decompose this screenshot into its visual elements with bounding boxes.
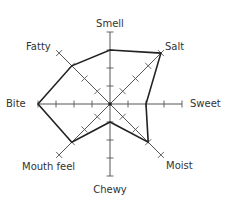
radar-chart: Smell Salt Sweet Moist Chewy Mouth feel … xyxy=(0,0,226,206)
axis-label-salt: Salt xyxy=(165,41,184,52)
axis-label-bite: Bite xyxy=(6,98,26,109)
axis-label-fatty: Fatty xyxy=(26,41,51,52)
axis-label-smell: Smell xyxy=(96,18,124,29)
center-point xyxy=(108,102,112,106)
axis-label-moist: Moist xyxy=(166,160,193,171)
axis-label-chewy: Chewy xyxy=(93,184,127,195)
data-polygon xyxy=(38,50,161,142)
axis-label-mouth-feel: Mouth feel xyxy=(22,161,75,172)
axis-label-sweet: Sweet xyxy=(190,98,221,109)
